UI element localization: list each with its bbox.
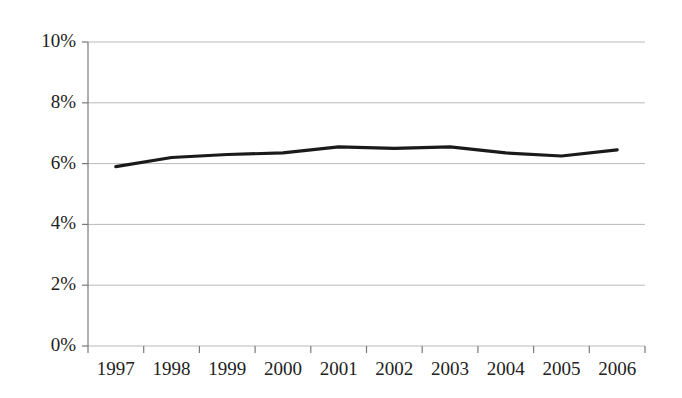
x-tick-label: 1998: [144, 358, 200, 380]
x-tick-label: 2000: [255, 358, 311, 380]
gridlines-group: [82, 42, 645, 346]
x-tick-label: 2004: [478, 358, 534, 380]
y-tick-label: 10%: [14, 30, 76, 52]
y-tick-label: 0%: [14, 334, 76, 356]
y-tick-label: 2%: [14, 273, 76, 295]
x-tick-label: 1999: [199, 358, 255, 380]
y-tick-label: 6%: [14, 152, 76, 174]
x-tick-label: 2001: [311, 358, 367, 380]
x-tick-label: 2002: [367, 358, 423, 380]
x-tick-marks-group: [88, 346, 645, 353]
y-tick-label: 4%: [14, 212, 76, 234]
line-chart-plot: [0, 0, 682, 398]
x-tick-label: 2006: [589, 358, 645, 380]
x-tick-label: 2005: [534, 358, 590, 380]
y-tick-label: 8%: [14, 91, 76, 113]
x-tick-label: 2003: [422, 358, 478, 380]
chart-container: 0%2%4%6%8%10% 19971998199920002001200220…: [0, 0, 682, 398]
x-tick-label: 1997: [88, 358, 144, 380]
